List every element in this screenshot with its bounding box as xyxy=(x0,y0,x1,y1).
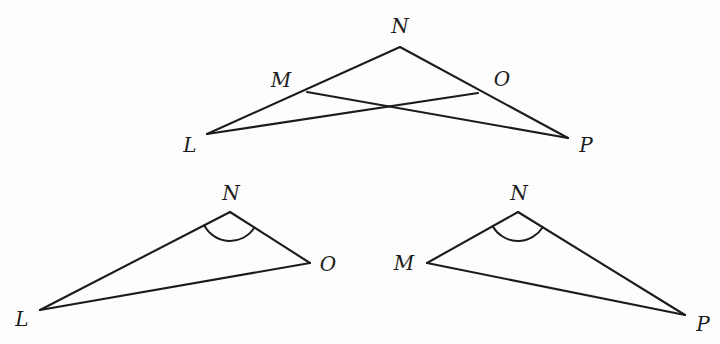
vertex-label-O: O xyxy=(320,252,336,276)
angle-arc-N xyxy=(493,226,543,241)
overlapping-triangles-group: NMOLP xyxy=(182,14,593,157)
vertex-label-N: N xyxy=(509,181,529,205)
geometry-canvas: NMOLP NOL NMP xyxy=(0,0,720,344)
angle-arc-N xyxy=(204,225,254,241)
vertex-label-L: L xyxy=(14,307,28,331)
segment-L-N xyxy=(207,47,400,134)
geometry-figure: NMOLP NOL NMP xyxy=(0,0,720,344)
segment-L-N xyxy=(40,212,230,310)
segment-N-P xyxy=(400,47,568,138)
vertex-label-N: N xyxy=(221,181,241,205)
triangle-L-N-O-group: NOL xyxy=(14,181,336,331)
triangle-M-N-P-group: NMP xyxy=(393,181,711,336)
segment-M-P xyxy=(427,263,685,315)
vertex-label-M: M xyxy=(393,251,415,275)
vertex-label-M: M xyxy=(270,68,292,92)
segment-L-O xyxy=(40,263,310,310)
vertex-label-P: P xyxy=(578,133,593,157)
vertex-label-N: N xyxy=(390,14,410,38)
vertex-label-P: P xyxy=(695,312,710,336)
vertex-label-L: L xyxy=(182,133,196,157)
vertex-label-O: O xyxy=(494,67,510,91)
